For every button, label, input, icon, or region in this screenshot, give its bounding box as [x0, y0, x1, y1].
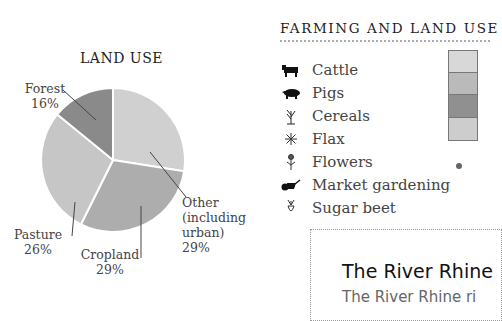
- legend-item-pigs: Pigs: [280, 81, 450, 104]
- pig-icon: [280, 84, 302, 102]
- legend-item-cereals: Cereals: [280, 104, 450, 127]
- legend-swatch-3: [448, 94, 478, 118]
- legend-swatch-1: [448, 50, 478, 73]
- info-box-text: The River Rhine ri: [342, 288, 476, 306]
- legend-swatch-4: [448, 117, 478, 141]
- city-dot-icon: [456, 163, 462, 169]
- wheelbarrow-icon: [280, 176, 302, 194]
- label-pasture: Pasture 26%: [10, 227, 66, 257]
- info-box-title: The River Rhine: [342, 260, 493, 282]
- legend-label: Sugar beet: [312, 199, 396, 217]
- label-other-line1: Other: [182, 195, 246, 210]
- slice-other: [113, 88, 185, 171]
- label-cropland: Cropland 29%: [80, 247, 140, 277]
- label-other-line3: urban): [182, 225, 246, 240]
- legend-label: Market gardening: [312, 176, 450, 194]
- label-cropland-pct: 29%: [80, 262, 140, 277]
- label-other-line2: (including: [182, 210, 246, 225]
- label-other: Other (including urban) 29%: [182, 195, 246, 255]
- label-forest: Forest 16%: [20, 81, 70, 111]
- legend-item-flax: Flax: [280, 127, 450, 150]
- legend-item-market-gardening: Market gardening: [280, 173, 450, 196]
- label-forest-pct: 16%: [20, 96, 70, 111]
- legend-label: Flowers: [312, 153, 373, 171]
- label-cropland-name: Cropland: [80, 247, 140, 262]
- farming-legend: Cattle Pigs Cereals Flax Flowers Market …: [280, 58, 450, 219]
- legend-label: Cattle: [312, 61, 358, 79]
- title-divider: [280, 40, 490, 42]
- cattle-icon: [280, 61, 302, 79]
- legend-label: Pigs: [312, 84, 344, 102]
- section-title: FARMING AND LAND USE: [280, 20, 499, 36]
- legend-item-flowers: Flowers: [280, 150, 450, 173]
- sugar-beet-icon: [280, 199, 302, 217]
- cereals-icon: [280, 107, 302, 125]
- label-pasture-name: Pasture: [10, 227, 66, 242]
- legend-swatch-2: [448, 72, 478, 95]
- label-forest-name: Forest: [20, 81, 70, 96]
- flower-icon: [280, 153, 302, 171]
- flax-icon: [280, 130, 302, 148]
- legend-item-sugar-beet: Sugar beet: [280, 196, 450, 219]
- legend-label: Flax: [312, 130, 345, 148]
- legend-item-cattle: Cattle: [280, 58, 450, 81]
- label-pasture-pct: 26%: [10, 242, 66, 257]
- label-other-pct: 29%: [182, 240, 246, 255]
- legend-label: Cereals: [312, 107, 370, 125]
